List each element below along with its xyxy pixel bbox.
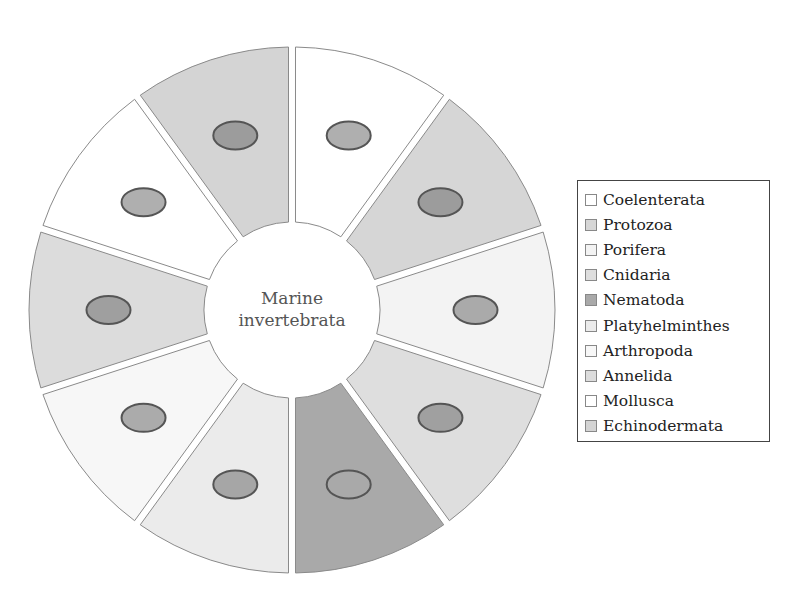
legend-label: Arthropoda	[603, 342, 693, 360]
starfish-icon	[213, 121, 257, 149]
protozoan-icon	[418, 188, 462, 216]
anemone-icon	[418, 404, 462, 432]
legend-item-cnidaria: Cnidaria	[585, 263, 769, 288]
center-label: Marine invertebrata	[207, 287, 377, 331]
sponge-coral-icon	[454, 296, 498, 324]
legend-swatch	[585, 395, 597, 407]
legend-swatch	[585, 294, 597, 306]
legend-item-annelida: Annelida	[585, 363, 769, 388]
legend-item-echinodermata: Echinodermata	[585, 414, 769, 439]
legend-swatch	[585, 244, 597, 256]
legend-label: Mollusca	[603, 392, 674, 410]
legend-item-nematoda: Nematoda	[585, 288, 769, 313]
legend-label: Porifera	[603, 241, 666, 259]
legend-label: Platyhelminthes	[603, 317, 730, 335]
legend-label: Annelida	[603, 367, 672, 385]
legend-swatch	[585, 269, 597, 281]
legend-label: Echinodermata	[603, 417, 723, 435]
legend-item-porifera: Porifera	[585, 237, 769, 262]
legend-label: Cnidaria	[603, 266, 671, 284]
legend-swatch	[585, 345, 597, 357]
center-label-line-2: invertebrata	[207, 309, 377, 331]
legend-label: Coelenterata	[603, 191, 705, 209]
legend-item-mollusca: Mollusca	[585, 389, 769, 414]
legend-item-arthropoda: Arthropoda	[585, 338, 769, 363]
legend-label: Nematoda	[603, 291, 684, 309]
center-label-line-1: Marine	[207, 287, 377, 309]
legend: Coelenterata Protozoa Porifera Cnidaria …	[577, 180, 770, 442]
legend-label: Protozoa	[603, 216, 672, 234]
jellyfish-icon	[327, 121, 371, 149]
legend-swatch	[585, 320, 597, 332]
legend-swatch	[585, 370, 597, 382]
legend-swatch	[585, 420, 597, 432]
shrimp-icon	[122, 404, 166, 432]
legend-swatch	[585, 194, 597, 206]
legend-swatch	[585, 219, 597, 231]
legend-item-coelenterata: Coelenterata	[585, 187, 769, 212]
snail-icon	[122, 188, 166, 216]
legend-item-platyhelminthes: Platyhelminthes	[585, 313, 769, 338]
segmented-worm-icon	[87, 296, 131, 324]
legend-item-protozoa: Protozoa	[585, 212, 769, 237]
flatworm-icon	[213, 471, 257, 499]
